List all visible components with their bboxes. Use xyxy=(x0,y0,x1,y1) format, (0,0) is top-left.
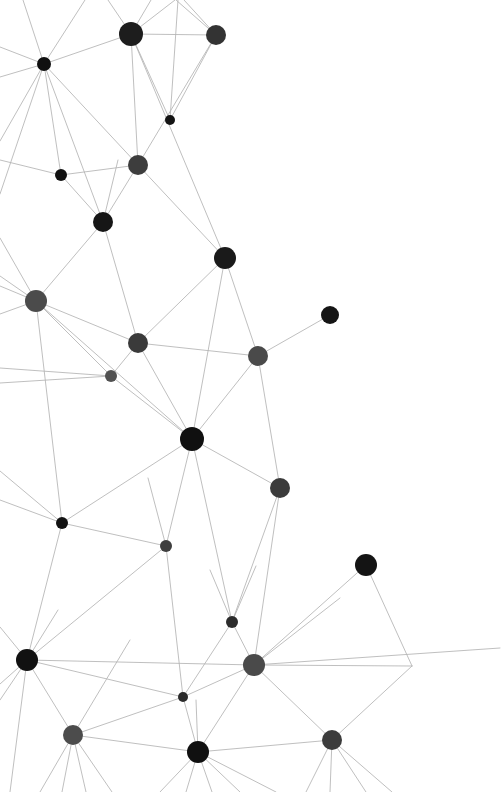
graph-node[interactable] xyxy=(321,306,339,324)
graph-node[interactable] xyxy=(128,155,148,175)
network-graph-svg xyxy=(0,0,504,792)
graph-node[interactable] xyxy=(63,725,83,745)
graph-node[interactable] xyxy=(93,212,113,232)
graph-node[interactable] xyxy=(226,616,238,628)
graph-node[interactable] xyxy=(248,346,268,366)
network-graph-canvas xyxy=(0,0,504,792)
graph-node[interactable] xyxy=(16,649,38,671)
graph-node[interactable] xyxy=(56,517,68,529)
graph-node[interactable] xyxy=(105,370,117,382)
graph-node[interactable] xyxy=(270,478,290,498)
graph-node[interactable] xyxy=(180,427,204,451)
graph-node[interactable] xyxy=(37,57,51,71)
graph-node[interactable] xyxy=(165,115,175,125)
graph-node[interactable] xyxy=(178,692,188,702)
graph-node[interactable] xyxy=(160,540,172,552)
graph-node[interactable] xyxy=(206,25,226,45)
graph-node[interactable] xyxy=(119,22,143,46)
graph-node[interactable] xyxy=(243,654,265,676)
graph-node[interactable] xyxy=(55,169,67,181)
graph-node[interactable] xyxy=(25,290,47,312)
graph-node[interactable] xyxy=(128,333,148,353)
graph-node[interactable] xyxy=(355,554,377,576)
graph-node[interactable] xyxy=(187,741,209,763)
graph-node[interactable] xyxy=(322,730,342,750)
graph-node[interactable] xyxy=(214,247,236,269)
